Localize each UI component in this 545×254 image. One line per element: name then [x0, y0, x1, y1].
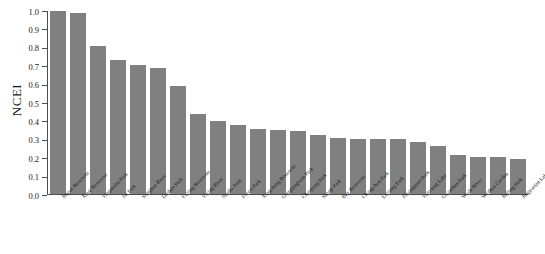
- y-axis-title: NCEI: [6, 0, 28, 200]
- y-axis-tick: 1.0: [42, 11, 47, 12]
- x-axis-tick-label: Guanshan Park: [441, 196, 445, 200]
- bar-chart-figure: NCEI 0.00.10.20.30.40.50.60.70.80.91.0 J…: [0, 0, 545, 254]
- x-axis-tick-label: Jingyuetan Lake: [521, 196, 525, 200]
- bar: [50, 11, 66, 194]
- x-axis-tick-label: Fuxing Reservoir: [181, 196, 185, 200]
- y-axis-tick: 0.2: [42, 158, 47, 159]
- y-axis-tick-label: 0.7: [28, 62, 39, 71]
- x-axis-tick-label: Yingmolin Park: [101, 196, 105, 200]
- y-axis-tick-label: 0.5: [28, 99, 39, 108]
- x-axis-tick-label: Forest Park: [241, 196, 245, 200]
- x-axis-tick-label: Songhua River: [141, 196, 145, 200]
- y-axis-tick: 0.6: [42, 85, 47, 86]
- x-axis-tick-label: Wenhua Garden: [481, 196, 485, 200]
- y-axis-tick-label: 1.0: [28, 7, 39, 16]
- x-axis-tick-labels: Jingue ReservoirXinsi ReservoirYingmolin…: [47, 196, 528, 254]
- bar: [70, 13, 86, 194]
- x-axis-tick-label: Lexiang Park: [381, 196, 385, 200]
- x-axis-tick-label: Yunxiang Lake: [421, 196, 425, 200]
- y-axis-title-text: NCEI: [9, 84, 25, 116]
- y-axis-tick-label: 0.8: [28, 44, 39, 53]
- y-axis-tick-label: 0.1: [28, 173, 39, 182]
- x-axis-tick-label: Shanji Park: [321, 196, 325, 200]
- bar: [130, 65, 146, 194]
- x-axis-tick-label: Wuda River: [461, 196, 465, 200]
- x-axis-tick-label: Dashao Park: [161, 196, 165, 200]
- x-axis-tick-label: Changchun Park: [361, 196, 365, 200]
- y-axis-tick: 0.4: [42, 121, 47, 122]
- x-axis-tick-label: Yixing River: [201, 196, 205, 200]
- y-axis-tick: 0.8: [42, 48, 47, 49]
- x-axis-tick-label: 1st Park: [121, 196, 125, 200]
- x-axis-tick-label: Zhuangqiao Park: [401, 196, 405, 200]
- x-axis-tick-label: Xinsi Reservoir: [81, 196, 85, 200]
- y-axis-tick: 0.1: [42, 177, 47, 178]
- x-axis-tick-label: Gongqingtuan Park: [281, 196, 285, 200]
- x-axis-tick-label: Bay Reservoir: [341, 196, 345, 200]
- y-axis-tick-label: 0.6: [28, 81, 39, 90]
- y-axis-tick: 0.7: [42, 66, 47, 67]
- y-axis-tick-label: 0.3: [28, 136, 39, 145]
- y-axis-tick: 0.5: [42, 103, 47, 104]
- x-axis-tick-label: Nanhu Park: [221, 196, 225, 200]
- x-axis-tick-label: Xingcheng Reservoir: [261, 196, 265, 200]
- y-axis-tick-label: 0.0: [28, 191, 39, 200]
- y-axis-tick: 0.3: [42, 140, 47, 141]
- y-axis-tick-label: 0.4: [28, 118, 39, 127]
- x-axis-tick-label: Jingue Reservoir: [61, 196, 65, 200]
- x-axis-tick-label: Jinfeng Park: [501, 196, 505, 200]
- y-axis-tick: 0.9: [42, 29, 47, 30]
- y-axis-tick-label: 0.9: [28, 26, 39, 35]
- x-axis-tick-label: Chaoyang Park: [301, 196, 305, 200]
- y-axis-tick-label: 0.2: [28, 154, 39, 163]
